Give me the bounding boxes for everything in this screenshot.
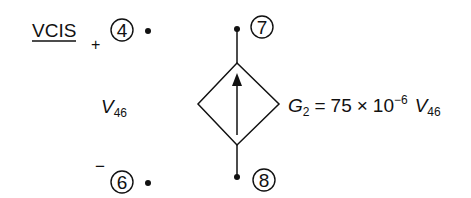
node-8-label: 8: [253, 169, 275, 191]
voltage-label-v46: V46: [101, 96, 127, 120]
negative-sign: −: [95, 157, 105, 176]
vcis-diagram: VCIS + 4 V46 − 6 7 8 G2=75×10−6V46: [0, 0, 471, 198]
dependent-source-diamond: [198, 63, 279, 145]
node-7-label: 7: [251, 16, 273, 38]
arrow-up-icon: [232, 73, 242, 86]
gain-equation: G2=75×10−6V46: [288, 93, 441, 119]
svg-text:8: 8: [259, 170, 270, 191]
terminal-dot-8: [234, 174, 240, 180]
svg-text:7: 7: [257, 17, 268, 38]
svg-text:6: 6: [117, 172, 128, 193]
svg-text:4: 4: [117, 20, 128, 41]
terminal-dot-6: [145, 180, 151, 186]
node-6-label: 6: [111, 171, 133, 193]
node-4-label: 4: [111, 19, 133, 41]
terminal-dot-4: [145, 28, 151, 34]
title-label: VCIS: [32, 20, 76, 41]
positive-sign: +: [91, 36, 100, 53]
